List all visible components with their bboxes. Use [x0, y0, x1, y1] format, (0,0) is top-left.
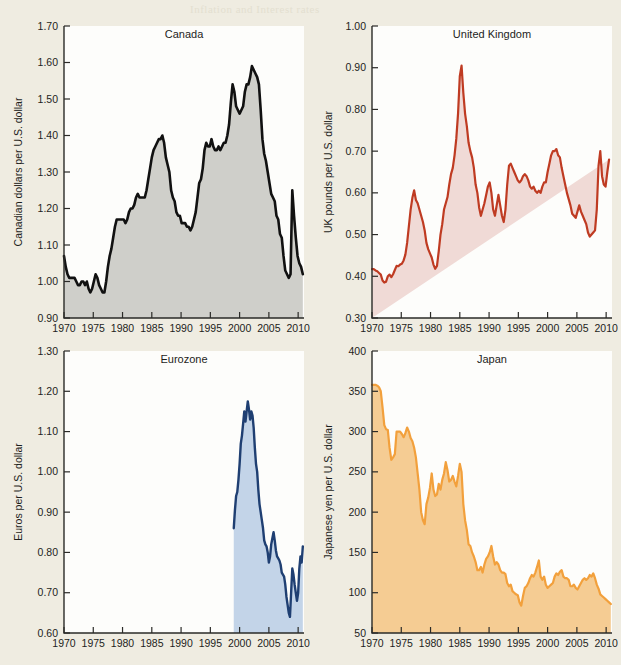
- panel-title: Canada: [165, 28, 204, 40]
- x-tick-label: 2005: [257, 322, 281, 334]
- y-tick-label: 400: [348, 345, 366, 357]
- y-tick-label: 0.50: [346, 228, 367, 240]
- x-tick-label: 1980: [419, 322, 443, 334]
- y-tick-label: 1.10: [38, 239, 59, 251]
- chart-united-kingdom[interactable]: 0.300.400.500.600.700.800.901.0019701975…: [318, 20, 618, 340]
- y-tick-label: 1.00: [38, 275, 59, 287]
- x-tick-label: 1980: [111, 637, 135, 649]
- chart-eurozone[interactable]: 0.600.700.800.901.001.101.201.3019701975…: [8, 345, 310, 655]
- x-tick-label: 2000: [536, 322, 560, 334]
- y-tick-label: 200: [348, 506, 366, 518]
- x-tick-label: 1975: [82, 322, 106, 334]
- panel-united-kingdom: 0.300.400.500.600.700.800.901.0019701975…: [318, 20, 618, 340]
- x-tick-label: 1980: [419, 637, 443, 649]
- y-tick-label: 0.60: [346, 186, 367, 198]
- y-tick-label: 0.80: [38, 546, 59, 558]
- y-tick-label: 1.20: [38, 202, 59, 214]
- x-tick-label: 1995: [507, 637, 531, 649]
- y-tick-label: 1.40: [38, 129, 59, 141]
- panel-grid: 0.901.001.101.201.301.401.501.601.701970…: [0, 0, 621, 665]
- y-tick-label: 1.00: [346, 20, 367, 32]
- chart-canada[interactable]: 0.901.001.101.201.301.401.501.601.701970…: [8, 20, 310, 340]
- x-tick-label: 1985: [448, 637, 472, 649]
- x-tick-label: 2010: [594, 322, 618, 334]
- x-tick-label: 2000: [228, 322, 252, 334]
- panel-title: Eurozone: [160, 353, 207, 365]
- x-tick-label: 2000: [228, 637, 252, 649]
- x-tick-label: 1970: [360, 637, 384, 649]
- x-tick-label: 1970: [52, 322, 76, 334]
- y-tick-label: 150: [348, 546, 366, 558]
- y-axis-title: Japanese yen per U.S. dollar: [322, 424, 334, 560]
- x-tick-label: 1990: [169, 637, 193, 649]
- y-axis-title: Canadian dollars per U.S. dollar: [12, 97, 24, 246]
- y-tick-label: 1.20: [38, 385, 59, 397]
- x-tick-label: 2005: [257, 637, 281, 649]
- panel-title: Japan: [477, 353, 507, 365]
- y-tick-label: 1.30: [38, 166, 59, 178]
- y-tick-label: 100: [348, 586, 366, 598]
- x-tick-label: 1985: [140, 322, 164, 334]
- x-tick-label: 1975: [82, 637, 106, 649]
- x-tick-label: 1970: [360, 322, 384, 334]
- x-tick-label: 1990: [169, 322, 193, 334]
- x-tick-label: 2005: [565, 637, 589, 649]
- y-tick-label: 0.70: [346, 145, 367, 157]
- x-tick-label: 1975: [390, 637, 414, 649]
- x-tick-label: 2005: [565, 322, 589, 334]
- y-tick-label: 1.00: [38, 465, 59, 477]
- y-axis-title: UK pounds per U.S. dollar: [322, 111, 334, 233]
- panel-canada: 0.901.001.101.201.301.401.501.601.701970…: [8, 20, 310, 340]
- y-tick-label: 300: [348, 425, 366, 437]
- x-tick-label: 1970: [52, 637, 76, 649]
- x-tick-label: 1995: [507, 322, 531, 334]
- x-tick-label: 1990: [477, 322, 501, 334]
- y-tick-label: 1.60: [38, 56, 59, 68]
- y-tick-label: 0.40: [346, 270, 367, 282]
- x-tick-label: 1990: [477, 637, 501, 649]
- x-tick-label: 1985: [140, 637, 164, 649]
- chart-japan[interactable]: 5010015020025030035040019701975198019851…: [318, 345, 618, 655]
- figure-page: Inflation and Interest rates 0.901.001.1…: [0, 0, 621, 665]
- y-tick-label: 1.30: [38, 345, 59, 357]
- y-tick-label: 1.50: [38, 93, 59, 105]
- y-axis-title: Euros per U.S. dollar: [12, 443, 24, 541]
- x-tick-label: 1995: [199, 637, 223, 649]
- x-tick-label: 2010: [594, 637, 618, 649]
- y-tick-label: 1.70: [38, 20, 59, 32]
- panel-japan: 5010015020025030035040019701975198019851…: [318, 345, 618, 655]
- x-tick-label: 1980: [111, 322, 135, 334]
- y-tick-label: 0.90: [346, 61, 367, 73]
- x-tick-label: 1975: [390, 322, 414, 334]
- x-tick-label: 1985: [448, 322, 472, 334]
- y-tick-label: 350: [348, 385, 366, 397]
- panel-eurozone: 0.600.700.800.901.001.101.201.3019701975…: [8, 345, 310, 655]
- x-tick-label: 2010: [286, 637, 310, 649]
- y-tick-label: 250: [348, 465, 366, 477]
- x-tick-label: 2000: [536, 637, 560, 649]
- y-tick-label: 1.10: [38, 425, 59, 437]
- y-tick-label: 0.80: [346, 103, 367, 115]
- x-tick-label: 2010: [286, 322, 310, 334]
- panel-title: United Kingdom: [453, 28, 531, 40]
- x-tick-label: 1995: [199, 322, 223, 334]
- y-tick-label: 0.70: [38, 586, 59, 598]
- y-tick-label: 0.90: [38, 506, 59, 518]
